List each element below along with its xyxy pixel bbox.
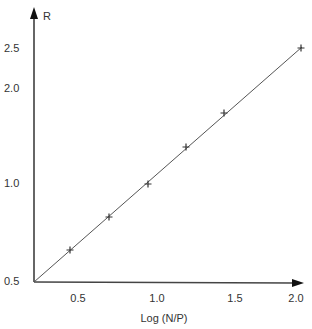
x-axis-arrow-icon xyxy=(292,279,304,287)
x-axis-title: Log (N/P) xyxy=(140,312,187,324)
y-axis-arrow-icon xyxy=(30,7,38,19)
chart: R Log (N/P) 0.5 1.0 2.0 2.5 0.5 1.0 1.5 … xyxy=(0,0,312,329)
y-tick-label: 1.0 xyxy=(4,177,19,189)
plus-marker-icon xyxy=(221,110,228,117)
x-axis xyxy=(34,282,293,283)
y-axis-title: R xyxy=(43,10,51,22)
axes xyxy=(30,7,304,287)
y-tick-label: 2.5 xyxy=(4,42,19,54)
plus-marker-icon xyxy=(183,144,190,151)
plus-marker-icon xyxy=(145,181,152,188)
fit-line xyxy=(34,47,302,282)
x-tick-label: 0.5 xyxy=(70,292,85,304)
x-tick-labels: 0.5 1.0 1.5 2.0 xyxy=(70,292,303,304)
x-tick-label: 2.0 xyxy=(288,292,303,304)
y-tick-labels: 0.5 1.0 2.0 2.5 xyxy=(4,42,19,287)
x-tick-label: 1.0 xyxy=(149,292,164,304)
y-tick-label: 0.5 xyxy=(4,275,19,287)
x-tick-label: 1.5 xyxy=(227,292,242,304)
y-tick-label: 2.0 xyxy=(4,82,19,94)
